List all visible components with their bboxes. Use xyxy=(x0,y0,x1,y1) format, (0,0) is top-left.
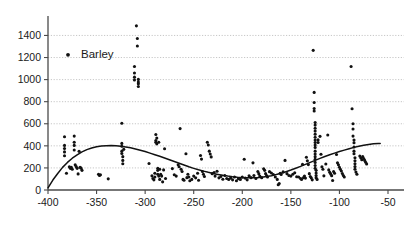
x-tick-label--50: -50 xyxy=(380,196,395,208)
data-point xyxy=(351,135,354,138)
data-point xyxy=(308,172,311,175)
data-point xyxy=(352,141,355,144)
data-point xyxy=(120,152,123,155)
data-point xyxy=(314,164,317,167)
data-point xyxy=(317,138,320,141)
data-point xyxy=(203,175,206,178)
data-point xyxy=(324,162,327,165)
data-point xyxy=(160,175,163,178)
data-point xyxy=(63,135,66,138)
data-point xyxy=(207,143,210,146)
data-point xyxy=(121,155,124,158)
data-point xyxy=(355,173,358,176)
data-point xyxy=(152,178,155,181)
barley-scatter-chart: 0200400600800100012001400 -400-350-300-2… xyxy=(0,0,410,226)
chart-plot-svg: 0200400600800100012001400 -400-350-300-2… xyxy=(0,0,410,226)
x-tick-label--150: -150 xyxy=(280,196,301,208)
data-point xyxy=(315,169,318,172)
data-point xyxy=(147,162,150,165)
data-point xyxy=(162,168,165,171)
data-point xyxy=(137,78,140,81)
data-point xyxy=(365,162,368,165)
data-point xyxy=(157,141,160,144)
x-tick-label--100: -100 xyxy=(329,196,350,208)
data-point xyxy=(158,178,161,181)
y-tick-label-1200: 1200 xyxy=(18,51,42,63)
data-point xyxy=(179,127,182,130)
data-point xyxy=(190,178,193,181)
legend-label: Barley xyxy=(81,48,114,60)
data-point xyxy=(63,154,66,157)
data-point xyxy=(99,173,102,176)
data-point xyxy=(121,159,124,162)
data-point xyxy=(150,174,153,177)
data-point xyxy=(65,172,68,175)
data-point xyxy=(313,101,316,104)
data-point xyxy=(181,170,184,173)
data-point xyxy=(153,172,156,175)
data-point xyxy=(276,178,279,181)
y-tick-label-200: 200 xyxy=(23,162,41,174)
legend: Barley xyxy=(66,48,114,60)
data-point xyxy=(313,91,316,94)
axes-group xyxy=(48,16,404,190)
data-point xyxy=(120,142,123,145)
data-point xyxy=(351,128,354,131)
data-point xyxy=(306,159,309,162)
data-point xyxy=(73,148,76,151)
data-point xyxy=(214,175,217,178)
x-tick-label--300: -300 xyxy=(135,196,156,208)
data-point xyxy=(133,65,136,68)
data-point xyxy=(353,165,356,168)
data-point xyxy=(333,172,336,175)
data-point xyxy=(135,24,138,27)
x-tick-label--400: -400 xyxy=(37,196,58,208)
data-point xyxy=(171,167,174,170)
data-point xyxy=(246,178,249,181)
y-tick-label-800: 800 xyxy=(23,95,41,107)
data-point xyxy=(208,150,211,153)
data-point xyxy=(164,177,167,180)
data-point xyxy=(331,179,334,182)
data-point xyxy=(133,78,136,81)
data-point xyxy=(122,148,125,151)
data-point xyxy=(197,179,200,182)
data-point xyxy=(353,159,356,162)
data-point xyxy=(352,150,355,153)
data-point xyxy=(314,155,317,158)
data-point xyxy=(305,156,308,159)
data-point xyxy=(209,152,212,155)
data-point xyxy=(318,135,321,138)
data-point xyxy=(243,158,246,161)
data-point xyxy=(321,168,324,171)
legend-marker-icon xyxy=(66,53,70,57)
data-point xyxy=(121,162,124,165)
trend-curve xyxy=(48,143,380,187)
data-point xyxy=(136,37,139,40)
data-point xyxy=(314,130,317,133)
y-tick-label-1000: 1000 xyxy=(18,73,42,85)
data-point xyxy=(278,182,281,185)
data-point xyxy=(63,150,66,153)
trend-curve-path xyxy=(48,143,380,187)
data-point xyxy=(76,167,79,170)
data-point xyxy=(312,49,315,52)
y-tick-label-600: 600 xyxy=(23,117,41,129)
data-point xyxy=(353,168,356,171)
data-point xyxy=(163,147,166,150)
data-point xyxy=(182,179,185,182)
data-point xyxy=(314,124,317,127)
data-point xyxy=(133,71,136,74)
data-point xyxy=(71,168,74,171)
data-point xyxy=(274,175,277,178)
data-point xyxy=(330,174,333,177)
data-point xyxy=(251,161,254,164)
data-point xyxy=(158,168,161,171)
data-point xyxy=(352,152,355,155)
data-point xyxy=(73,141,76,144)
data-point xyxy=(120,122,123,125)
y-axis-tick-labels: 0200400600800100012001400 xyxy=(18,29,42,196)
data-point xyxy=(314,136,317,139)
data-point xyxy=(133,76,136,79)
data-point xyxy=(221,178,224,181)
